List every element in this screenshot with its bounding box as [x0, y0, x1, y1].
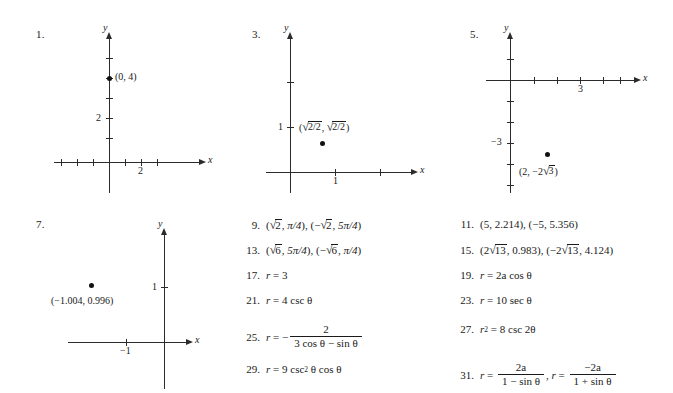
answer-row: 9. (√2, π/4), (−√2, 5π/4) [238, 219, 361, 232]
x-tick-label: −1 [120, 345, 131, 356]
y-axis-label: y [158, 218, 162, 229]
answer-number: 31. [452, 370, 474, 381]
point-label: (0, 4) [115, 71, 137, 82]
x-tick [157, 159, 158, 166]
answer-number: 15. [452, 245, 474, 256]
y-axis-arrow [106, 32, 112, 39]
y-tick-label: 1 [278, 121, 283, 132]
point-label: (2, −2√3) [519, 165, 558, 177]
y-tick [106, 58, 113, 59]
numerator: −2a [580, 362, 605, 375]
plotted-point [89, 283, 94, 288]
answer-number: 23. [452, 295, 474, 306]
y-axis-label: y [284, 22, 288, 33]
graph-panel-5: 3 −3 x y (2, −2√3) [468, 22, 668, 197]
answer-body: r = 2a1 − sin θ, r = −2a1 + sin θ [480, 362, 618, 388]
x-tick-label: 2 [138, 165, 143, 176]
answers-column-right: 11. (5, 2.214), (−5, 5.356) 15. (2√13, 0… [452, 212, 672, 392]
denominator: 1 − sin θ [498, 374, 544, 388]
sqrt-2-second: √2/2 [327, 121, 346, 133]
y-tick [106, 138, 113, 139]
sqrt-6: √6 [326, 244, 338, 257]
x-tick [557, 77, 558, 84]
y-tick [287, 82, 294, 83]
value: 9 csc [282, 364, 304, 375]
y-tick [507, 122, 514, 123]
y-tick [507, 59, 514, 60]
y-axis [290, 38, 291, 193]
five-pi-over-4: 5π/4 [338, 220, 358, 231]
answer-body: r = 4 csc θ [266, 295, 312, 306]
x-axis [68, 342, 186, 343]
x-tick [603, 77, 604, 84]
y-axis-arrow [287, 32, 293, 39]
answer-row: 11. (5, 2.214), (−5, 5.356) [452, 219, 578, 230]
x-axis [54, 162, 199, 163]
sqrt-2-first: √2/2 [302, 121, 321, 133]
x-tick [620, 77, 621, 84]
five-pi-over-4: 5π/4 [287, 245, 307, 256]
x-axis-arrow [186, 339, 193, 345]
x-tick [534, 77, 535, 84]
plotted-point [320, 141, 325, 146]
y-tick [287, 127, 294, 128]
answer-row: 31. r = 2a1 − sin θ, r = −2a1 + sin θ [452, 362, 618, 388]
y-axis [510, 38, 511, 193]
answer-number: 19. [452, 270, 474, 281]
numerator: 2a [512, 362, 530, 375]
answer-key-page: 1. 2 2 x y (0, 4) 3. [0, 0, 673, 393]
answer-body: r = 2a cos θ [480, 270, 532, 281]
y-axis [164, 234, 165, 389]
answers-column-middle: 9. (√2, π/4), (−√2, 5π/4) 13. (√6, 5π/4)… [238, 212, 453, 392]
answer-body: r = 9 csc2 θ cos θ [266, 364, 342, 375]
x-axis-label: x [195, 334, 199, 345]
answer-number: 27. [452, 324, 474, 335]
sqrt-2: √2 [270, 219, 282, 232]
numerator: 2 [319, 324, 333, 337]
y-tick-label: 1 [152, 281, 157, 292]
y-tick [507, 185, 514, 186]
value: 10 sec θ [496, 295, 532, 306]
answer-body: (5, 2.214), (−5, 5.356) [480, 219, 578, 230]
x-tick [125, 159, 126, 166]
y-tick [106, 118, 113, 119]
y-tick [161, 287, 168, 288]
value-tail: θ cos θ [311, 364, 342, 375]
answer-body: r2 = 8 csc 2θ [480, 324, 536, 335]
middle: , 0.983), (−2 [507, 245, 562, 256]
x-axis [486, 80, 634, 81]
pi-over-4: π/4 [343, 245, 357, 256]
value: 8 csc 2θ [500, 324, 536, 335]
prefix: (2 [480, 245, 489, 256]
answer-number: 11. [452, 219, 474, 230]
answer-row: 29. r = 9 csc2 θ cos θ [238, 364, 342, 375]
answer-row: 21. r = 4 csc θ [238, 295, 312, 306]
answer-row: 13. (√6, 5π/4), (−√6, π/4) [238, 244, 361, 257]
answer-row: 17. r = 3 [238, 270, 288, 281]
x-tick-label: 3 [578, 83, 583, 94]
y-axis-label: y [103, 22, 107, 33]
x-axis-arrow [411, 169, 418, 175]
x-tick [380, 169, 381, 176]
x-axis-arrow [634, 77, 641, 83]
answer-body: r = −23 cos θ − sin θ [266, 324, 364, 350]
answer-body: (√6, 5π/4), (−√6, π/4) [266, 244, 361, 257]
denominator: 3 cos θ − sin θ [290, 336, 362, 350]
answer-row: 19. r = 2a cos θ [452, 270, 532, 281]
y-axis-arrow [507, 32, 513, 39]
answer-row: 23. r = 10 sec θ [452, 295, 532, 306]
value: 2a cos θ [496, 270, 532, 281]
y-tick-label: −3 [491, 136, 502, 147]
answer-number: 17. [238, 270, 260, 281]
answer-number: 29. [238, 364, 260, 375]
y-tick-label: 2 [96, 112, 101, 123]
x-tick [93, 159, 94, 166]
answer-body: (√2, π/4), (−√2, 5π/4) [266, 219, 361, 232]
sqrt-13: √13 [489, 244, 507, 257]
graph-panel-1: 2 2 x y (0, 4) [34, 22, 214, 192]
sqrt-6: √6 [270, 244, 282, 257]
x-axis-label: x [208, 154, 212, 165]
fraction: 23 cos θ − sin θ [290, 324, 362, 350]
value: 3 [282, 270, 288, 281]
answer-body: r = 3 [266, 270, 288, 281]
